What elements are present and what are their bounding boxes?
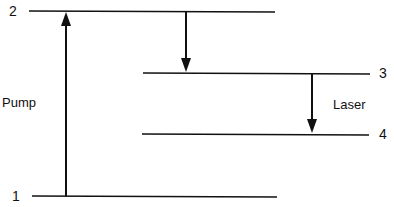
level-2-line	[29, 11, 275, 12]
level-4-line	[142, 134, 369, 135]
level-3-line	[143, 73, 370, 74]
level-1-line	[32, 196, 277, 197]
laser-arrowhead-icon	[307, 119, 317, 133]
laser-label: Laser	[333, 98, 366, 111]
level-3-label: 3	[379, 66, 387, 80]
pump-arrowhead-icon	[61, 12, 71, 26]
relaxation-arrowhead-icon	[181, 58, 191, 72]
level-2-label: 2	[9, 4, 17, 18]
pump-label: Pump	[2, 96, 36, 109]
level-4-label: 4	[379, 127, 387, 141]
level-1-label: 1	[12, 189, 20, 203]
